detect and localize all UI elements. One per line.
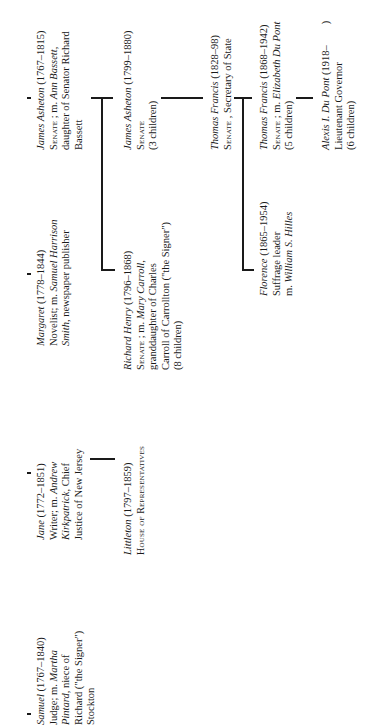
person-note: m.	[283, 283, 294, 296]
person-jane: Jane (1772–1851) Writer; m. Andrew Kirkp…	[35, 449, 85, 540]
spouse-name: Mary Carroll	[135, 263, 146, 320]
connector-tick-samuel	[27, 713, 31, 715]
person-name: Richard Henry	[122, 308, 133, 370]
person-note: (5 children)	[283, 22, 296, 150]
office-label: Senate	[271, 121, 282, 150]
connector-tick-james-asheton	[27, 97, 31, 99]
person-note: Justice of New Jersey	[73, 449, 86, 540]
person-florence: Florence (1865–1954) Suffrage leader m. …	[258, 202, 296, 296]
connector-bracket2-vertical	[242, 97, 244, 271]
person-dates: (1796–1868)	[122, 251, 133, 305]
spouse-name: Samuel Harrison	[48, 219, 59, 291]
connector-jane-littleton	[90, 458, 115, 460]
person-james-asheton-1767: James Asheton (1767–1815) Senate ; m. An…	[35, 31, 85, 150]
person-role: Judge; m.	[48, 682, 59, 725]
person-dates: (1767–1840)	[35, 637, 46, 691]
person-name: James Asheton	[35, 87, 46, 150]
person-note: Bassett	[73, 31, 86, 150]
person-note: (8 children)	[172, 222, 185, 370]
separator: ; m.	[271, 99, 282, 121]
person-richard-henry: Richard Henry (1796–1868) Senate ; m. Ma…	[122, 222, 185, 370]
person-name: Thomas Francis	[209, 81, 220, 150]
connector-bracket-vertical	[101, 97, 103, 271]
person-name: Littleton	[122, 519, 133, 555]
person-thomas-francis-1828: Thomas Francis (1828–98) Senate , Secret…	[209, 35, 234, 150]
person-dates: (1799–1880)	[122, 31, 133, 85]
person-dates: (1772–1851)	[35, 463, 46, 517]
person-name: Alexis I. Du Pont	[320, 78, 331, 150]
person-margaret: Margaret (1778–1844) Novelist; m. Samuel…	[35, 219, 73, 346]
person-alexis-du-pont: Alexis I. Du Pont (1918– ) Lieutenant Go…	[320, 21, 358, 150]
person-james-asheton-1799: James Asheton (1799–1880) Senate (3 chil…	[122, 31, 160, 150]
person-dates: (1797–1859)	[122, 463, 133, 517]
person-note: Richard ("the Signer")	[73, 631, 86, 725]
person-role: Writer; m.	[48, 494, 59, 540]
person-note: , newspaper publisher	[60, 230, 71, 322]
connector-tick-jane	[27, 472, 31, 474]
person-thomas-francis-1868: Thomas Francis (1868–1942) Senate ; m. E…	[258, 22, 296, 150]
office-label: Senate	[48, 121, 59, 150]
person-dates: (1767–1815)	[35, 31, 46, 85]
person-dates: (1865–1954)	[258, 202, 269, 256]
connector-james-thomas	[161, 97, 203, 99]
person-name: Thomas Francis	[258, 81, 269, 150]
office-label: House of Representatives	[135, 446, 148, 555]
spouse-name: William S. Hilles	[283, 212, 294, 283]
spouse-name: Elizabeth Du Pont	[271, 22, 282, 100]
person-name: Samuel	[35, 694, 46, 725]
person-dates: (1778–1844)	[35, 250, 46, 304]
person-dates: (1828–98)	[209, 35, 220, 79]
office-label: Senate	[135, 31, 148, 150]
spouse-name: Ann Bassett	[48, 49, 59, 99]
connector-bracket-horizontal-bottom	[101, 269, 115, 271]
person-name: Margaret	[35, 307, 46, 346]
connector-tick-margaret	[27, 273, 31, 275]
person-note: (6 children)	[345, 21, 358, 150]
separator: ; m.	[48, 99, 59, 121]
person-littleton: Littleton (1797–1859) House of Represent…	[122, 446, 147, 555]
person-note: daughter of Senator Richard	[60, 31, 73, 150]
person-name: Jane	[35, 520, 46, 540]
person-note: Lieutenant Governor	[333, 21, 346, 150]
spouse-name: Kirkpatrick	[60, 492, 71, 540]
connector-bracket2-horizontal-bottom	[242, 269, 254, 271]
person-role: Novelist; m.	[48, 291, 59, 346]
spouse-name: Smith	[60, 322, 71, 346]
person-samuel: Samuel (1767–1840) Judge; m. Martha Pint…	[35, 631, 98, 725]
person-name: James Asheton	[122, 87, 133, 150]
office-label: Senate	[135, 341, 146, 370]
person-note: granddaughter of Charles	[147, 222, 160, 370]
person-note: , Chief	[60, 463, 71, 492]
separator: ,	[135, 260, 146, 263]
person-dates: (1918– )	[320, 21, 331, 75]
office-label: Senate	[222, 121, 233, 150]
person-note: , niece of	[60, 655, 71, 694]
person-name: Florence	[258, 258, 269, 296]
person-note: Carroll of Carrollton ("the Signer")	[160, 222, 173, 370]
connector-thomas-alexis	[296, 97, 313, 99]
person-note: (3 children)	[147, 31, 160, 150]
spouse-name: Andrew	[48, 462, 59, 494]
person-note: Stockton	[85, 631, 98, 725]
spouse-name: Pintard	[60, 693, 71, 725]
person-note: Suffrage leader	[271, 202, 284, 296]
separator: ; m.	[135, 319, 146, 341]
spouse-name: Martha	[48, 650, 59, 682]
separator: ,	[48, 47, 59, 50]
person-note: , Secretary of State	[222, 38, 233, 121]
person-dates: (1868–1942)	[258, 25, 269, 79]
